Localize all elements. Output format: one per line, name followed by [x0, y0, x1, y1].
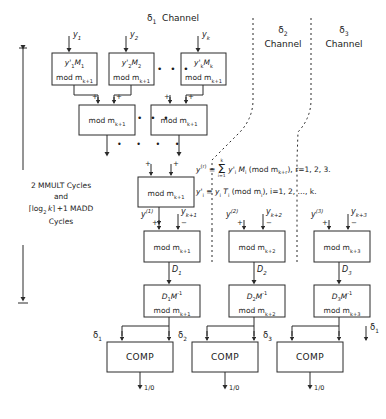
d-label-3: D3 [342, 266, 352, 276]
timing-annotation: 2 MMULT Cycles and ⌈log2 k⌉ +1 MADD Cycl… [6, 180, 116, 227]
adder-sign-b2: + [173, 161, 179, 168]
adder-sign-a3: + [164, 94, 170, 101]
channel-separator-1 [212, 18, 253, 230]
madd-row2-ellipsis: • • • [137, 113, 171, 123]
timing-line-1: 2 MMULT Cycles [6, 180, 116, 191]
d-label-1: D1 [172, 266, 182, 276]
subtract-box-2-text: mod mk+2 [229, 243, 285, 254]
madd-row3-box-text: mod mk+1 [138, 189, 194, 200]
d-label-2: D2 [257, 266, 267, 276]
comparator-2-label: COMP [192, 352, 258, 362]
adder-sign-b1: + [145, 161, 151, 168]
comparator-fanout-wires [122, 317, 366, 340]
input-label-y2: y2 [130, 31, 138, 41]
timing-line-3: ⌈log2 k⌉ +1 MADD [6, 203, 116, 216]
mmult-box-2-line2: mod mk+1 [109, 73, 154, 84]
d-wires [169, 262, 339, 283]
mmult-row-ellipsis: • • • [157, 64, 191, 74]
adder-sign-a2: + [116, 94, 122, 101]
comparator-2-output: 1/0 [229, 385, 239, 392]
adder-sign-a1: + [92, 94, 98, 101]
madd-row2-box-1-text: mod mk+1 [79, 116, 135, 127]
channel-3-header: δ3 Channel [315, 24, 373, 50]
channel-2-word: Channel [257, 38, 309, 50]
mmult-box-1-text: y'1M1 mod mk+1 [52, 58, 97, 84]
channel-1-symbol: δ1 [147, 13, 156, 23]
mmult-box-2-line1: y'2M2 [109, 58, 154, 69]
scale-box-2-text: D2M-1 mod mk+2 [229, 290, 285, 317]
mmult-box-2-text: y'2M2 mod mk+1 [109, 58, 154, 84]
subtract-sign-minus-1: − [181, 220, 187, 227]
subtract-sign-minus-3: − [351, 220, 357, 227]
input-label-y1: y1 [73, 31, 81, 41]
comparator-3-output: 1/0 [314, 385, 324, 392]
partial-sum-label-2: y(2) [226, 209, 238, 219]
scale-box-2-line1: D2M-1 [229, 290, 285, 302]
subtract-sign-plus-3: + [322, 220, 328, 227]
channel-3-word: Channel [315, 38, 373, 50]
delta-label-comp-3: δ3 [263, 330, 272, 342]
equation-y-r: y(r) ≡ k Σ i=1 y'i Mi (mod mk+r), r=1, 2… [196, 160, 331, 179]
subtract-sign-plus-1: + [152, 220, 158, 227]
delta-label-comp-1: δ1 [93, 330, 102, 342]
timing-line-4: Cycles [6, 216, 116, 227]
subtract-sign-minus-2: − [266, 220, 272, 227]
partial-sum-label-1: y(1) [141, 209, 153, 219]
equation-y-prime: y'i ≡ yi Ti (mod mi), i=1, 2, …, k. [196, 188, 317, 198]
channel-1-header: δ1 Channel [118, 12, 228, 26]
scale-box-1-line1: D1M-1 [144, 290, 200, 302]
scale-box-1-text: D1M-1 mod mk+1 [144, 290, 200, 317]
delta-label-feedback: δ1 [370, 322, 379, 334]
subtract-row-wires [144, 214, 370, 262]
comparator-1-output: 1/0 [144, 385, 154, 392]
tree-vertical-ellipsis: • • • • [117, 140, 186, 149]
scale-box-3-line2: mod mk+3 [314, 306, 370, 317]
scale-box-2-line2: mod mk+2 [229, 306, 285, 317]
partial-sum-label-3: y(3) [311, 209, 323, 219]
subtract-sign-plus-2: + [237, 220, 243, 227]
scale-box-3-line1: D3M-1 [314, 290, 370, 302]
mmult-box-1-line2: mod mk+1 [52, 73, 97, 84]
sum-lower-limit: i=1 [218, 174, 226, 179]
redundant-input-label-2: yk+2 [266, 208, 282, 218]
comparator-1-label: COMP [107, 352, 173, 362]
scale-box-1-line2: mod mk+1 [144, 306, 200, 317]
channel-2-symbol: δ2 [257, 24, 309, 38]
adder-sign-a4: + [188, 94, 194, 101]
timing-line-2: and [6, 191, 116, 202]
redundant-input-label-1: yk+1 [181, 208, 197, 218]
comparator-output-arrows [140, 372, 310, 388]
timing-span-arrow [18, 48, 28, 303]
redundant-input-label-3: yk+3 [351, 208, 367, 218]
channel-1-word: Channel [162, 13, 199, 23]
scale-box-3-text: D3M-1 mod mk+3 [314, 290, 370, 317]
subtract-box-1-text: mod mk+1 [144, 243, 200, 254]
mmult-box-1-line1: y'1M1 [52, 58, 97, 69]
comparator-3-label: COMP [277, 352, 343, 362]
channel-3-symbol: δ3 [315, 24, 373, 38]
delta-label-comp-2: δ2 [178, 330, 187, 342]
channel-2-header: δ2 Channel [257, 24, 309, 50]
input-label-yk: yk [202, 31, 210, 41]
subtract-box-3-text: mod mk+3 [314, 243, 370, 254]
figure-canvas: δ1 Channel δ2 Channel δ3 Channel y1 y2 y… [0, 0, 386, 419]
mmult-box-k-line2: mod mk+1 [181, 73, 226, 84]
